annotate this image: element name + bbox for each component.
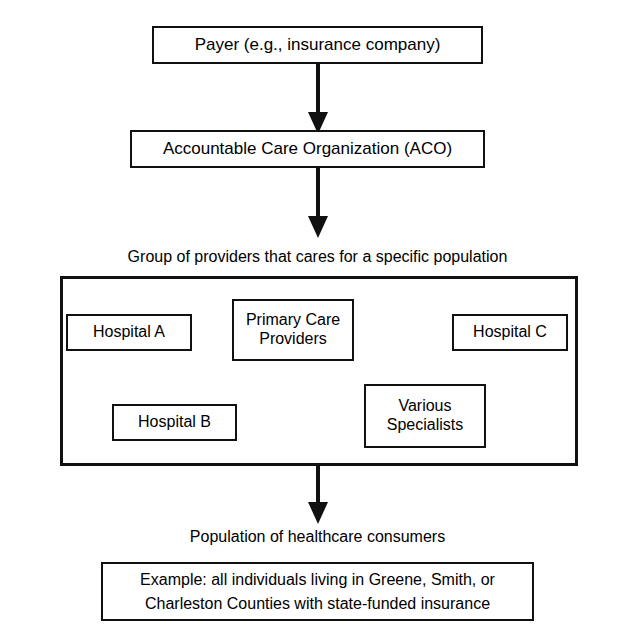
example-population-node-label: Example: all individuals living in Green… [103,568,532,614]
aco-flow-diagram: Payer (e.g., insurance company) Accounta… [0,0,635,633]
provider-group-caption: Group of providers that cares for a spec… [0,248,635,266]
provider-node-hospital-a-label: Hospital A [87,323,171,342]
provider-node-hospital-b-label: Hospital B [132,413,217,432]
population-caption: Population of healthcare consumers [0,528,635,546]
provider-node-hospital-b: Hospital B [112,404,237,441]
aco-node: Accountable Care Organization (ACO) [130,130,485,168]
provider-node-primary-care: Primary Care Providers [232,299,354,361]
provider-node-primary-care-label: Primary Care Providers [240,311,346,349]
payer-node-label: Payer (e.g., insurance company) [189,35,447,55]
example-population-node: Example: all individuals living in Green… [101,562,534,621]
arrow-provider-group-to-population-icon [296,464,340,524]
provider-node-hospital-c: Hospital C [452,314,568,351]
provider-node-various-specialists: Various Specialists [364,384,486,448]
payer-node: Payer (e.g., insurance company) [152,26,483,64]
aco-node-label: Accountable Care Organization (ACO) [157,139,458,159]
provider-node-various-specialists-label: Various Specialists [381,397,469,435]
provider-node-hospital-a: Hospital A [66,314,192,351]
arrow-payer-to-aco-icon [296,62,340,134]
provider-node-hospital-c-label: Hospital C [467,323,553,342]
arrow-aco-to-provider-group-icon [296,166,340,238]
